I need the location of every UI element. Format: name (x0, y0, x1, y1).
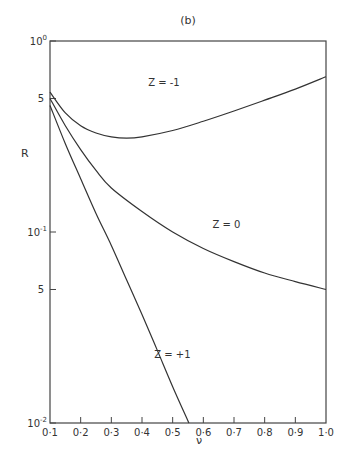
x-tick-label: 0·4 (134, 427, 150, 438)
plot-frame (50, 41, 326, 423)
x-tick-label: 1·0 (318, 427, 334, 438)
series-line (50, 98, 326, 289)
y-tick-label: 5 (38, 93, 44, 104)
y-tick-label: 5 (38, 284, 44, 295)
x-tick-label: 0·8 (257, 427, 273, 438)
series-label: Z = +1 (154, 349, 190, 360)
x-tick-label: 0·5 (165, 427, 181, 438)
series-line (50, 77, 326, 138)
series-line (50, 105, 189, 423)
y-axis: 100510-1510-2 (27, 34, 56, 429)
x-tick-label: 0·3 (103, 427, 119, 438)
series-group: Z = -1Z = 0Z = +1 (50, 77, 326, 423)
y-axis-label: R (21, 147, 29, 160)
chart-title: (b) (180, 14, 196, 27)
x-axis-label: ν (196, 434, 202, 447)
series-label: Z = -1 (148, 77, 180, 88)
y-tick-label: 100 (30, 34, 47, 47)
series-label: Z = 0 (213, 219, 241, 230)
x-tick-label: 0·2 (73, 427, 89, 438)
x-tick-label: 0·7 (226, 427, 242, 438)
x-tick-label: 0·9 (287, 427, 303, 438)
x-tick-label: 0·1 (42, 427, 58, 438)
chart: (b) 100510-1510-2 0·10·20·30·40·50·60·70… (0, 0, 354, 467)
y-tick-label: 10-1 (27, 225, 47, 238)
